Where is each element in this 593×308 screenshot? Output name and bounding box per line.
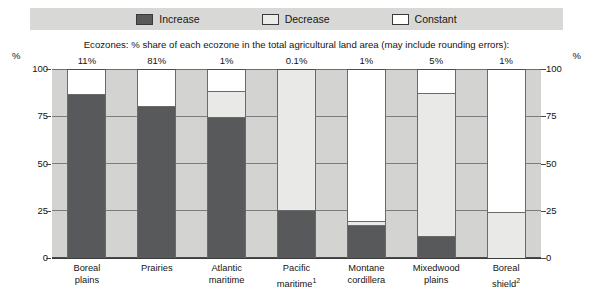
bar-slot — [52, 69, 122, 258]
category-line-1: Boreal — [471, 263, 541, 275]
stacked-bar[interactable] — [67, 69, 106, 258]
chart-legend: Increase Decrease Constant — [30, 8, 563, 30]
legend-label-increase: Increase — [159, 14, 199, 25]
y-tick-label-0-l: 0 — [18, 253, 48, 263]
x-axis-category-label: Borealplains — [52, 263, 122, 290]
bar-segment-increase[interactable] — [347, 226, 386, 258]
legend-item-constant: Constant — [392, 14, 457, 25]
stacked-bar[interactable] — [277, 69, 316, 258]
share-label: 5% — [401, 55, 471, 67]
legend-swatch-increase-icon — [136, 14, 153, 25]
legend-item-increase: Increase — [136, 14, 199, 25]
legend-item-decrease: Decrease — [262, 14, 330, 25]
chart-subtitle: Ecozones: % share of each ecozone in the… — [0, 39, 593, 50]
x-axis-category-label: Prairies — [122, 263, 192, 290]
y-tick-label-25-r: 25 — [546, 206, 576, 216]
y-tick-mark — [46, 69, 51, 70]
bar-segment-decrease[interactable] — [487, 213, 526, 258]
bar-segment-increase[interactable] — [137, 107, 176, 258]
y-axis-unit-left: % — [12, 50, 20, 61]
legend-swatch-decrease-icon — [262, 14, 279, 25]
stacked-bar[interactable] — [137, 69, 176, 258]
x-axis-line — [52, 258, 541, 259]
x-axis-category-label: Montanecordillera — [331, 263, 401, 290]
share-label: 1% — [331, 55, 401, 67]
y-tick-mark — [46, 116, 51, 117]
bar-segment-constant[interactable] — [347, 69, 386, 222]
y-tick-label-50-l: 50 — [18, 159, 48, 169]
y-tick-mark — [46, 258, 51, 259]
bar-segment-increase[interactable] — [207, 118, 246, 258]
bar-segment-constant[interactable] — [417, 69, 456, 94]
bar-slot — [471, 69, 541, 258]
y-axis-unit-right: % — [573, 50, 581, 61]
y-tick-label-50-r: 50 — [546, 159, 576, 169]
bar-segment-decrease[interactable] — [347, 222, 386, 226]
y-tick-label-100-l: 100 — [18, 64, 48, 74]
category-line-1: Prairies — [122, 263, 192, 275]
share-label-row: 11%81%1%0.1%1%5%1% — [52, 55, 541, 67]
stacked-bar[interactable] — [417, 69, 456, 258]
bar-slot — [331, 69, 401, 258]
x-axis-category-label: Borealshield2 — [471, 263, 541, 290]
footnote-marker: 2 — [516, 277, 520, 284]
bar-segment-decrease[interactable] — [277, 69, 316, 211]
bar-segment-increase[interactable] — [417, 237, 456, 258]
y-tick-mark — [541, 258, 546, 259]
category-line-2: maritime — [192, 275, 262, 287]
x-axis-category-label: Mixedwoodplains — [401, 263, 471, 290]
bar-slot — [262, 69, 332, 258]
bar-slot — [401, 69, 471, 258]
y-tick-mark — [541, 69, 546, 70]
category-line-1: Atlantic — [192, 263, 262, 275]
legend-swatch-constant-icon — [392, 14, 409, 25]
stacked-bar[interactable] — [347, 69, 386, 258]
y-tick-label-100-r: 100 — [546, 64, 576, 74]
category-line-1: Mixedwood — [401, 263, 471, 275]
share-label: 0.1% — [262, 55, 332, 67]
bar-group — [52, 69, 541, 258]
x-axis-category-row: BorealplainsPrairiesAtlanticmaritimePaci… — [52, 263, 541, 290]
category-line-1: Pacific — [262, 263, 332, 275]
y-tick-label-75-l: 75 — [18, 111, 48, 121]
x-axis-category-label: Atlanticmaritime — [192, 263, 262, 290]
category-line-1: Boreal — [52, 263, 122, 275]
y-tick-mark — [541, 164, 546, 165]
y-tick-label-75-r: 75 — [546, 111, 576, 121]
y-tick-mark — [541, 116, 546, 117]
share-label: 1% — [192, 55, 262, 67]
bar-segment-increase[interactable] — [277, 211, 316, 258]
stacked-bar[interactable] — [207, 69, 246, 258]
category-line-2: maritime1 — [262, 275, 332, 291]
legend-label-constant: Constant — [415, 14, 457, 25]
share-label: 1% — [471, 55, 541, 67]
category-line-1: Montane — [331, 263, 401, 275]
y-tick-mark — [541, 211, 546, 212]
bar-segment-constant[interactable] — [67, 69, 106, 95]
category-line-2: plains — [52, 275, 122, 287]
bar-segment-decrease[interactable] — [207, 92, 246, 118]
share-label: 81% — [122, 55, 192, 67]
y-tick-mark — [46, 211, 51, 212]
plot-area — [52, 69, 541, 258]
bar-slot — [192, 69, 262, 258]
footnote-marker: 1 — [312, 277, 316, 284]
bar-segment-constant[interactable] — [207, 69, 246, 92]
y-tick-label-0-r: 0 — [546, 253, 576, 263]
bar-segment-decrease[interactable] — [417, 94, 456, 238]
bar-segment-constant[interactable] — [137, 69, 176, 107]
bar-slot — [122, 69, 192, 258]
category-line-2: cordillera — [331, 275, 401, 287]
legend-label-decrease: Decrease — [285, 14, 330, 25]
y-tick-mark — [46, 164, 51, 165]
stacked-bar[interactable] — [487, 69, 526, 258]
bar-segment-increase[interactable] — [67, 95, 106, 258]
category-line-2: plains — [401, 275, 471, 287]
chart-figure: Increase Decrease Constant Ecozones: % s… — [0, 0, 593, 308]
share-label: 11% — [52, 55, 122, 67]
category-line-2: shield2 — [471, 275, 541, 291]
bar-segment-constant[interactable] — [487, 69, 526, 213]
x-axis-category-label: Pacificmaritime1 — [262, 263, 332, 290]
y-tick-label-25-l: 25 — [18, 206, 48, 216]
